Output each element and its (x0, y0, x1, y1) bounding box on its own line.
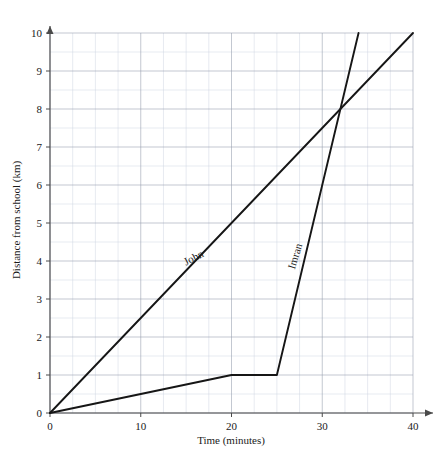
x-tick-label: 10 (135, 420, 147, 432)
y-tick-label: 2 (37, 331, 43, 343)
x-tick-label: 0 (47, 420, 53, 432)
x-tick-label: 40 (408, 420, 420, 432)
chart-canvas: 010203040 012345678910 JohnImran Time (m… (0, 0, 448, 459)
y-tick-label: 7 (37, 141, 43, 153)
y-tick-label: 5 (37, 217, 43, 229)
y-tick-label: 9 (37, 65, 43, 77)
x-tick-label: 30 (317, 420, 329, 432)
y-tick-label: 10 (31, 27, 43, 39)
y-axis-title: Distance from school (km) (10, 161, 23, 280)
y-tick-label: 4 (37, 255, 43, 267)
x-axis-title: Time (minutes) (197, 434, 265, 447)
y-tick-label: 0 (37, 407, 43, 419)
y-tick-label: 3 (37, 293, 43, 305)
distance-time-graph-figure: 010203040 012345678910 JohnImran Time (m… (0, 0, 448, 459)
y-tick-label: 8 (37, 103, 43, 115)
y-tick-label: 1 (37, 369, 43, 381)
y-tick-label: 6 (37, 179, 43, 191)
x-tick-label: 20 (226, 420, 238, 432)
